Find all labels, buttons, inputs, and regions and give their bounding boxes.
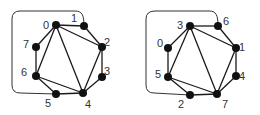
node-label-5: 5	[45, 97, 51, 109]
node-7	[213, 90, 221, 98]
right-graph: 36147250	[146, 11, 245, 110]
node-0	[52, 21, 60, 29]
node-6	[32, 72, 40, 80]
node-label-7: 7	[222, 98, 228, 110]
node-label-5: 5	[155, 68, 161, 80]
node-7	[32, 43, 40, 51]
node-3	[186, 22, 194, 30]
edge-3-7	[190, 26, 217, 94]
edge-0-1	[56, 25, 84, 26]
node-label-0: 0	[43, 19, 49, 31]
node-label-2: 2	[178, 98, 184, 110]
node-label-1: 1	[239, 41, 245, 53]
edge-3-5	[168, 26, 190, 77]
node-label-7: 7	[23, 38, 29, 50]
node-label-0: 0	[157, 37, 163, 49]
edge-7-5	[168, 77, 217, 94]
edge-1-7	[217, 48, 236, 94]
edge-7-2	[190, 94, 217, 95]
node-label-3: 3	[177, 19, 183, 31]
edge-6-1	[218, 26, 236, 48]
edge-0-4	[56, 25, 83, 93]
node-label-2: 2	[104, 36, 110, 48]
left-graph: 01234567	[12, 11, 110, 110]
edge-4-6	[36, 76, 83, 93]
graph-diagram: 0123456736147250	[0, 0, 260, 115]
edge-1-2	[84, 26, 102, 47]
node-label-4: 4	[85, 98, 91, 110]
edge-2-4	[83, 47, 102, 93]
node-5	[52, 90, 60, 98]
node-label-3: 3	[104, 65, 110, 77]
node-4	[79, 89, 87, 97]
edge-2-5	[168, 77, 190, 95]
node-1	[80, 22, 88, 30]
node-6	[214, 22, 222, 30]
node-label-6: 6	[223, 15, 229, 27]
node-0	[164, 44, 172, 52]
node-label-1: 1	[71, 12, 77, 24]
edge-5-6	[36, 76, 56, 94]
edge-4-5	[56, 93, 83, 94]
node-label-6: 6	[21, 66, 27, 78]
node-label-4: 4	[239, 70, 245, 82]
edge-0-6	[36, 25, 56, 76]
node-5	[164, 73, 172, 81]
node-2	[186, 91, 194, 99]
